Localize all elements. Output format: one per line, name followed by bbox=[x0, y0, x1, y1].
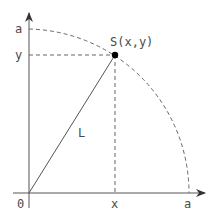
label-segment-L: L bbox=[78, 126, 85, 140]
label-y-axis-a: a bbox=[15, 22, 22, 36]
quarter-circle-diagram: a y S(x,y) L 0 x a bbox=[0, 0, 218, 219]
label-origin: 0 bbox=[17, 197, 24, 211]
segment-L bbox=[29, 55, 115, 193]
label-x-proj: x bbox=[111, 197, 118, 211]
label-point-S: S(x,y) bbox=[110, 35, 153, 49]
label-x-axis-a: a bbox=[184, 197, 191, 211]
point-S bbox=[112, 52, 118, 58]
quarter-circle-arc bbox=[29, 29, 189, 193]
label-y-proj: y bbox=[15, 48, 22, 62]
